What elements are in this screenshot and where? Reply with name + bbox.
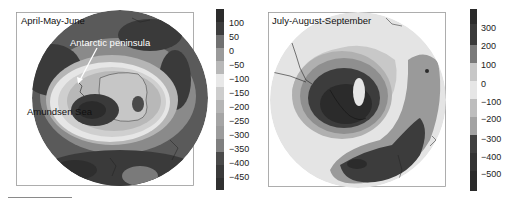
right-cbar-tick: −500 <box>481 169 501 179</box>
right-cbar-tick: −300 <box>481 134 501 144</box>
right-colorbar: 300 200 100 0 −100 −200 −300 −400 −500 <box>470 9 501 191</box>
annotation-amundsen-sea: Amundsen Sea <box>27 106 93 117</box>
left-cbar-tick: 50 <box>229 32 239 42</box>
left-cbar-tick: −300 <box>229 130 249 140</box>
left-cbar-tick: −450 <box>229 172 249 182</box>
left-cbar-tick: −250 <box>229 116 249 126</box>
left-colorbar: 100 50 0 −50 −100 −150 −200 −250 −300 −3… <box>216 9 249 190</box>
right-cbar-tick: −100 <box>481 97 501 107</box>
left-cbar-tick: −350 <box>229 144 249 154</box>
right-cbar-tick: 100 <box>481 60 496 70</box>
left-panel-title: April-May-June <box>21 15 85 26</box>
right-map-panel: July-August-September <box>269 12 447 188</box>
right-cbar-tick: −400 <box>481 152 501 162</box>
figure: April-May-June Antarctic peninsula Amund… <box>0 0 514 200</box>
right-cbar-tick: 200 <box>481 41 496 51</box>
left-cbar-tick: −400 <box>229 158 249 168</box>
left-cbar-tick: −50 <box>229 60 244 70</box>
right-contour-map <box>270 12 446 188</box>
annotation-antarctic-peninsula: Antarctic peninsula <box>70 37 151 48</box>
right-cbar-tick: 300 <box>481 23 496 33</box>
left-cbar-tick: 0 <box>229 46 234 56</box>
left-cbar-tick: 100 <box>229 18 244 28</box>
left-map-panel: April-May-June Antarctic peninsula Amund… <box>17 10 209 194</box>
right-panel-title: July-August-September <box>272 15 371 26</box>
right-cbar-tick: −200 <box>481 114 501 124</box>
left-cbar-tick: −100 <box>229 74 249 84</box>
left-cbar-tick: −200 <box>229 102 249 112</box>
left-cbar-tick: −150 <box>229 88 249 98</box>
right-cbar-tick: 0 <box>481 79 486 89</box>
